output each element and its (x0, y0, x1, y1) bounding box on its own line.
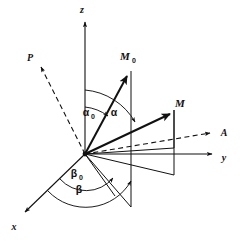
origin-point (83, 152, 88, 157)
x-axis-label: x (11, 221, 17, 232)
beta0-label: β (71, 167, 78, 179)
m-vector-label: M (174, 97, 186, 109)
beta0-arc (60, 178, 113, 191)
m0-vector-label: M (119, 50, 131, 62)
m-projection-plane (85, 110, 174, 175)
m0-plane-lower-edge (85, 154, 131, 207)
z-axis-label: z (79, 4, 84, 15)
alpha0-label: α (83, 106, 90, 118)
y-axis-label: y (221, 152, 227, 163)
alpha0-subscript: 0 (91, 113, 95, 120)
alpha-label: α (111, 106, 118, 118)
p-axis-label: P (27, 52, 34, 63)
beta-label: β (76, 183, 83, 195)
m0-vector-subscript: 0 (132, 57, 136, 64)
beta-arc (48, 181, 131, 207)
p-axis-ray (41, 67, 85, 154)
axes-group (25, 22, 212, 212)
beta0-label-group: β 0 (71, 167, 83, 181)
figure-root: z y x M 0 M P A α 0 α β 0 β (0, 0, 245, 241)
m0-vector-label-group: M 0 (119, 50, 136, 64)
a-axis-label: A (220, 127, 228, 138)
m-plane-upper-edge (85, 148, 174, 154)
vectors-group (85, 76, 170, 154)
m-vector (85, 114, 170, 154)
coordinate-diagram-canvas: z y x M 0 M P A α 0 α β 0 β (0, 0, 245, 241)
alpha0-label-group: α 0 (83, 106, 95, 120)
beta0-subscript: 0 (79, 174, 83, 181)
a-axis-ray (85, 133, 210, 154)
